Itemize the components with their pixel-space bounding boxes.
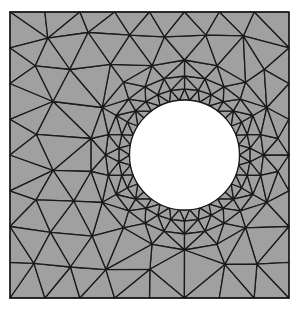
circular-hole xyxy=(130,100,240,210)
mesh-diagram xyxy=(0,0,302,310)
